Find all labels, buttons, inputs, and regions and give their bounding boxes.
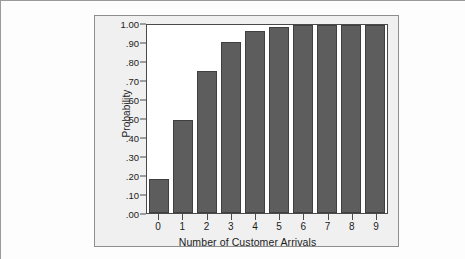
y-tick-label: .50 (105, 114, 139, 125)
bar-slot (315, 25, 339, 213)
chart-panel: Probability 1.00 .90 .80 .70 .60 .50 .40… (94, 15, 399, 247)
bar[interactable] (173, 120, 193, 213)
x-tick-label: 2 (194, 220, 218, 234)
x-tick-label: 4 (243, 220, 267, 234)
bar[interactable] (293, 25, 313, 213)
y-tick-label: .30 (105, 152, 139, 163)
x-tick-label: 7 (315, 220, 339, 234)
bar-slot (363, 25, 387, 213)
y-tick-label: .40 (105, 133, 139, 144)
page-frame: Probability 1.00 .90 .80 .70 .60 .50 .40… (0, 0, 465, 259)
bar-series (147, 25, 387, 213)
bar-slot (339, 25, 363, 213)
x-tick-label: 0 (146, 220, 170, 234)
x-tick-label: 8 (340, 220, 364, 234)
bar[interactable] (317, 25, 337, 213)
y-tick-label: .00 (105, 209, 139, 220)
bar-slot (243, 25, 267, 213)
bar[interactable] (365, 25, 385, 213)
bar-slot (171, 25, 195, 213)
y-tick-label: .80 (105, 57, 139, 68)
bar[interactable] (197, 71, 217, 213)
bar-slot (219, 25, 243, 213)
bar[interactable] (149, 179, 169, 213)
y-tick-label: .70 (105, 76, 139, 87)
x-tick-label: 6 (291, 220, 315, 234)
bar-slot (195, 25, 219, 213)
y-tick-label: 1.00 (105, 19, 139, 30)
x-tick-label: 5 (267, 220, 291, 234)
x-tick-label: 9 (364, 220, 388, 234)
y-tick-label: .60 (105, 95, 139, 106)
x-tick-label: 3 (219, 220, 243, 234)
plot-area (146, 24, 388, 214)
y-tick-label: .10 (105, 190, 139, 201)
bar-slot (291, 25, 315, 213)
bar-slot (267, 25, 291, 213)
y-tick-label: .90 (105, 38, 139, 49)
bar[interactable] (269, 27, 289, 213)
bar[interactable] (221, 42, 241, 213)
y-tick-label: .20 (105, 171, 139, 182)
bar[interactable] (341, 25, 361, 213)
bar[interactable] (245, 31, 265, 213)
y-axis-tick-labels: 1.00 .90 .80 .70 .60 .50 .40 .30 .20 .10… (105, 24, 139, 214)
x-tick-label: 1 (170, 220, 194, 234)
x-axis-label: Number of Customer Arrivals (95, 236, 400, 248)
bar-slot (147, 25, 171, 213)
x-axis-tick-labels: 0 1 2 3 4 5 6 7 8 9 (146, 220, 388, 234)
